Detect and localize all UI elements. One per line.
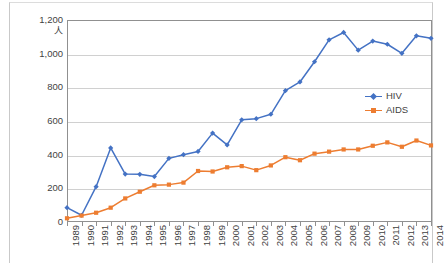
y-tick-label: 400 <box>10 150 63 160</box>
x-tick-label: 2004 <box>289 225 299 246</box>
y-tick-label: 0 <box>10 217 63 227</box>
x-tick-label: 2010 <box>377 225 387 246</box>
data-point <box>94 211 98 215</box>
data-point <box>269 163 273 167</box>
data-point <box>152 183 156 187</box>
chart-legend: HIVAIDS <box>362 87 424 119</box>
data-point <box>94 184 99 189</box>
y-tick-label: 800 <box>10 83 63 93</box>
x-tick-label: 2001 <box>246 225 256 246</box>
x-tick-label: 1990 <box>86 225 96 246</box>
data-point <box>429 143 433 147</box>
legend-swatch-icon <box>365 106 382 115</box>
x-tick-label: 1997 <box>187 225 197 246</box>
data-point <box>342 147 346 151</box>
x-tick-label: 2012 <box>406 225 416 246</box>
y-axis-unit-label: 人 <box>54 27 63 36</box>
x-tick-label: 1991 <box>100 225 110 246</box>
x-tick-label: 2011 <box>391 225 401 245</box>
x-tick-label: 1989 <box>71 225 81 246</box>
data-point <box>312 152 316 156</box>
data-point <box>298 158 302 162</box>
x-axis: 1989199019911992199319941995199619971998… <box>67 225 432 265</box>
x-tick-label: 2008 <box>348 225 358 246</box>
data-point <box>181 181 185 185</box>
y-tick-label: 1,200 <box>10 15 63 25</box>
x-tick-label: 1995 <box>158 225 168 246</box>
y-axis: 1,2001,0008006004002000 <box>10 20 63 222</box>
x-tick-label: 1992 <box>115 225 125 246</box>
legend-label: HIV <box>386 91 402 101</box>
x-tick-label: 2007 <box>333 225 343 246</box>
series-layer <box>67 20 432 222</box>
data-point <box>283 155 287 159</box>
x-tick-label: 2013 <box>420 225 430 246</box>
data-point <box>79 214 83 218</box>
x-tick-label: 2009 <box>362 225 372 246</box>
x-tick-label: 1996 <box>173 225 183 246</box>
y-tick-label: 1,000 <box>10 49 63 59</box>
legend-item-aids[interactable]: AIDS <box>362 103 424 117</box>
legend-swatch-icon <box>365 92 382 101</box>
data-point <box>196 169 200 173</box>
legend-item-hiv[interactable]: HIV <box>362 89 424 103</box>
data-point <box>356 147 360 151</box>
data-point <box>371 144 375 148</box>
x-tick-label: 2014 <box>435 225 445 246</box>
data-point <box>400 145 404 149</box>
y-tick-label: 200 <box>10 184 63 194</box>
data-point <box>225 165 229 169</box>
data-point <box>137 172 142 177</box>
series-line <box>67 32 431 215</box>
data-point <box>428 36 433 41</box>
legend-label: AIDS <box>386 105 408 115</box>
data-point <box>138 190 142 194</box>
x-tick-label: 2006 <box>319 225 329 246</box>
series-line <box>67 141 431 219</box>
data-point <box>327 150 331 154</box>
data-point <box>414 138 418 142</box>
data-point <box>211 169 215 173</box>
x-tick-label: 1994 <box>144 225 154 246</box>
x-tick-label: 1999 <box>217 225 227 246</box>
data-point <box>254 116 259 121</box>
data-point <box>167 183 171 187</box>
data-point <box>240 164 244 168</box>
x-tick-label: 2005 <box>304 225 314 246</box>
chart-frame: 1,2001,0008006004002000 人 19891990199119… <box>9 2 433 263</box>
data-point <box>254 168 258 172</box>
series-aids <box>65 138 433 220</box>
data-point <box>123 196 127 200</box>
x-tick-label: 2002 <box>260 225 270 246</box>
data-point <box>181 152 186 157</box>
series-hiv <box>64 30 433 218</box>
data-point <box>65 216 69 220</box>
x-tick-label: 2003 <box>275 225 285 246</box>
y-tick-label: 600 <box>10 116 63 126</box>
x-tick-label: 1993 <box>129 225 139 246</box>
data-point <box>64 205 69 210</box>
x-tick-label: 1998 <box>202 225 212 246</box>
data-point <box>385 140 389 144</box>
data-point <box>109 206 113 210</box>
x-tick-label: 2000 <box>231 225 241 246</box>
